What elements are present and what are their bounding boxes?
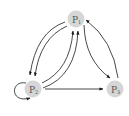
edges-p2-to-p1 [42,31,78,88]
node-p2-subscript: 2 [35,89,38,95]
node-p3: P 3 [107,81,124,98]
edges-p1-to-p2 [30,22,67,76]
node-p1: P 1 [68,11,85,28]
edge-p1-to-p3 [84,25,110,78]
edge-p2-to-p1-a [42,31,73,83]
node-p3-subscript: 3 [117,89,120,95]
edge-p1-to-p2-b [35,26,67,76]
state-graph: P 1 P 2 P 3 [0,0,129,116]
node-p2: P 2 [25,81,42,98]
edge-p3-to-p1 [86,20,118,78]
node-p1-subscript: 1 [78,19,81,25]
